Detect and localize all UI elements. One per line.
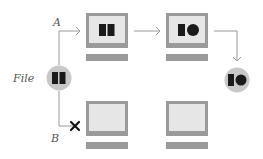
- monitor-base: [86, 54, 128, 61]
- monitor-b1: [86, 101, 128, 149]
- block-icon: [52, 72, 58, 84]
- monitor-a1: [86, 13, 128, 61]
- monitor-b2: [166, 101, 208, 149]
- flow-diagram: A File B: [0, 0, 263, 159]
- circle-icon: [187, 24, 199, 36]
- block-icon: [60, 72, 66, 84]
- file-source-node: [47, 66, 72, 91]
- block-icon: [228, 74, 234, 86]
- path-a-label: A: [52, 16, 61, 29]
- block-icon: [108, 24, 115, 36]
- file-result-node: [225, 68, 250, 93]
- edge-a2-to-result: [214, 31, 241, 61]
- monitor-base: [86, 142, 128, 149]
- monitor-base: [166, 142, 208, 149]
- monitor-a2: [166, 13, 208, 61]
- block-icon: [99, 24, 106, 36]
- path-b-label: B: [50, 132, 59, 145]
- file-label: File: [12, 72, 35, 85]
- edge-a1-to-a2: [134, 27, 160, 35]
- block-icon: [178, 24, 185, 36]
- monitor-base: [166, 54, 208, 61]
- edge-source-to-b1: [59, 91, 74, 126]
- edge-source-to-a1: [59, 27, 80, 65]
- circle-icon: [236, 75, 247, 86]
